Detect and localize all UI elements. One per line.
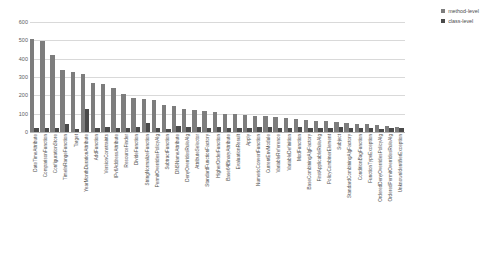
x-axis-tick-label: Target <box>73 134 78 147</box>
bar-class-level <box>339 127 343 132</box>
bar-class-level <box>65 124 69 132</box>
bar-group <box>202 22 212 132</box>
x-axis-tick-label: DNSNameAttribute <box>175 134 180 174</box>
x-axis-tick-label: OrderedPermitOverridesRuleAlg <box>387 134 392 202</box>
x-axis-tick-label: IPv6AddressAttribute <box>114 134 119 178</box>
bar-group <box>131 22 141 132</box>
x-axis-label-cell: EvaluationResult <box>233 134 243 260</box>
y-axis-tick-label: 600 <box>2 19 28 25</box>
y-axis: 0100200300400500600 <box>0 22 28 132</box>
x-axis-tick-label: DateTimeAttribute <box>33 134 38 172</box>
bar-group <box>152 22 162 132</box>
x-axis-tick-label: DenyOverridesRuleAlg <box>185 134 190 182</box>
bar-group <box>395 22 405 132</box>
bar-series-container <box>30 22 405 132</box>
bar-class-level <box>237 128 241 132</box>
x-axis-label-cell: SubtractFunction <box>162 134 172 260</box>
x-axis-label-cell: Base64BinaryAttribute <box>223 134 233 260</box>
bar-group <box>81 22 91 132</box>
bar-class-level <box>176 126 180 132</box>
x-axis-tick-label: DivideFunction <box>134 134 139 165</box>
bar-class-level <box>166 129 170 132</box>
bar-class-level <box>257 127 261 133</box>
bar-group <box>142 22 152 132</box>
x-axis-label-cell: AddFunction <box>91 134 101 260</box>
x-axis-tick-label: PermitOverridesPolicyAlg <box>154 134 159 187</box>
x-axis-tick-label: ModFunction <box>296 134 301 161</box>
bar-class-level <box>45 128 49 132</box>
x-axis-label-cell: VariableDefinition <box>284 134 294 260</box>
y-axis-tick-label: 100 <box>2 111 28 117</box>
x-axis-tick-label: AddFunction <box>93 134 98 160</box>
bar-class-level <box>288 128 292 132</box>
x-axis-label-cell: FunctionTypeException <box>365 134 375 260</box>
bar-class-level <box>34 128 38 132</box>
x-axis-tick-label: FirstApplicableRuleAlg <box>317 134 322 181</box>
x-axis-label-cell: ResourceFinder <box>121 134 131 260</box>
bar-class-level <box>328 128 332 132</box>
bar-method-level <box>30 39 34 133</box>
bar-class-level <box>217 127 221 132</box>
bar-group <box>182 22 192 132</box>
x-axis-tick-label: TimeInRangeFunction <box>63 134 68 180</box>
x-axis-tick-label: OrderedDenyOverridesPolicyAlg <box>377 134 382 202</box>
bar-class-level <box>207 128 211 132</box>
bar-group <box>294 22 304 132</box>
bar-class-level <box>268 127 272 132</box>
x-axis-tick-label: Subject <box>337 134 342 150</box>
x-axis-label-cell: ConfigurationStore <box>50 134 60 260</box>
x-axis-tick-label: VariableReference <box>276 134 281 173</box>
bar-group <box>253 22 263 132</box>
legend-item[interactable]: class-level <box>441 18 479 24</box>
bar-class-level <box>399 128 403 132</box>
bar-group <box>50 22 60 132</box>
bar-group <box>375 22 385 132</box>
x-axis-label-cell: ConditionBagFunction <box>355 134 365 260</box>
x-axis-tick-label: ComparisonFunction <box>43 134 48 177</box>
bar-group <box>273 22 283 132</box>
x-axis-label-cell: AttributeSelector <box>192 134 202 260</box>
bar-group <box>243 22 253 132</box>
bar-method-level <box>101 84 105 132</box>
bar-group <box>355 22 365 132</box>
bar-class-level <box>156 128 160 132</box>
y-axis-tick-label: 500 <box>2 37 28 43</box>
legend-item[interactable]: method-level <box>441 8 479 14</box>
bar-method-level <box>91 83 95 132</box>
x-axis-tick-label: YearMonthDurationAttribute <box>83 134 88 192</box>
x-axis-tick-label: EvaluationResult <box>235 134 240 169</box>
bar-group <box>365 22 375 132</box>
x-axis-label-cell: VariableReference <box>273 134 283 260</box>
bar-group <box>385 22 395 132</box>
x-axis-label-cell: HigherOrderFunction <box>213 134 223 260</box>
x-axis-label-cell: OrderedDenyOverridesPolicyAlg <box>375 134 385 260</box>
bar-method-level <box>111 88 115 132</box>
x-axis-tick-label: FunctionTypeException <box>367 134 372 183</box>
x-axis-label-cell: StandardFunctionFactory <box>202 134 212 260</box>
bar-group <box>111 22 121 132</box>
bar-group <box>324 22 334 132</box>
bar-class-level <box>278 128 282 132</box>
x-axis-label-cell: YearMonthDurationAttribute <box>81 134 91 260</box>
bar-group <box>91 22 101 132</box>
bar-group <box>334 22 344 132</box>
bar-class-level <box>247 128 251 132</box>
x-axis-tick-label: StandardFunctionFactory <box>205 134 210 187</box>
x-axis-label-cell: Apply <box>243 134 253 260</box>
x-axis-tick-label: Apply <box>246 134 251 146</box>
bar-method-level <box>60 70 64 132</box>
x-axis-label-cell: UnknownIdentifierException <box>395 134 405 260</box>
bar-method-level <box>40 41 44 132</box>
x-axis-label-cell: DNSNameAttribute <box>172 134 182 260</box>
bar-group <box>40 22 50 132</box>
bar-class-level <box>308 128 312 132</box>
bar-class-level <box>146 123 150 132</box>
bar-group <box>304 22 314 132</box>
bar-class-level <box>126 128 130 132</box>
plot-area <box>30 22 405 132</box>
x-axis-tick-label: ResourceFinder <box>124 134 129 167</box>
x-axis-tick-label: ConditionBagFunction <box>357 134 362 180</box>
y-axis-tick-label: 400 <box>2 56 28 62</box>
bar-class-level <box>95 128 99 132</box>
x-axis-label-cell: DateTimeAttribute <box>30 134 40 260</box>
